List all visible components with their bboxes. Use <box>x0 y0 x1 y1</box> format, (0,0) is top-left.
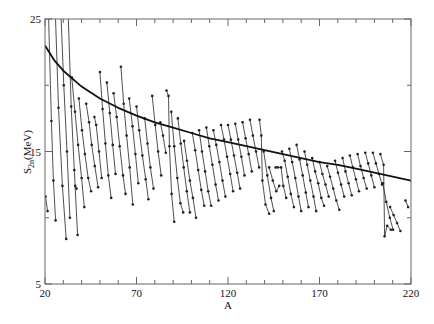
data-point <box>367 162 370 165</box>
isotope-chain <box>372 152 384 186</box>
data-point <box>244 137 247 140</box>
data-point <box>128 166 131 169</box>
data-point <box>220 124 223 127</box>
data-point <box>270 197 273 200</box>
data-point <box>314 170 317 173</box>
data-point <box>407 206 410 209</box>
data-point <box>338 209 341 212</box>
chain-line <box>46 197 48 212</box>
data-point <box>112 92 115 95</box>
data-point <box>301 174 304 177</box>
data-point <box>399 230 402 233</box>
data-point <box>168 145 171 148</box>
data-point <box>255 150 258 153</box>
isotope-chain <box>295 144 310 209</box>
data-point <box>201 150 204 153</box>
data-point <box>264 203 267 206</box>
data-point <box>182 166 185 169</box>
data-point <box>151 95 154 98</box>
isotope-chain <box>349 154 361 192</box>
data-point <box>317 182 320 185</box>
data-point <box>273 210 276 213</box>
isotope-chain <box>112 92 127 195</box>
data-point <box>211 164 214 167</box>
data-point <box>152 187 155 190</box>
data-point <box>173 220 176 223</box>
data-point <box>277 166 280 169</box>
tick-labels: 207012017022051525 <box>30 13 420 299</box>
data-point <box>66 150 69 153</box>
data-point <box>131 125 134 128</box>
data-point <box>392 214 395 217</box>
chain-line <box>250 120 259 168</box>
chain-line <box>343 158 352 195</box>
data-point <box>90 190 93 193</box>
data-point <box>77 144 80 147</box>
data-point <box>226 156 229 159</box>
chain-line <box>269 167 279 191</box>
chain-line <box>160 122 166 153</box>
chain-line <box>380 154 391 236</box>
data-point <box>362 177 365 180</box>
chain-line <box>350 156 359 192</box>
data-point <box>132 203 135 206</box>
data-point <box>266 174 269 177</box>
data-point <box>88 121 91 124</box>
data-point <box>94 165 97 168</box>
isotope-chain <box>220 124 235 193</box>
y-axis-label-sub: 2n <box>27 160 36 168</box>
data-point <box>73 169 76 172</box>
data-point <box>99 71 102 74</box>
isotope-chain <box>274 166 287 199</box>
data-point <box>80 177 83 180</box>
data-point <box>204 170 207 173</box>
data-point <box>70 105 73 108</box>
data-point <box>233 154 236 157</box>
data-point <box>375 162 378 165</box>
data-point <box>379 153 382 156</box>
data-point <box>285 197 288 200</box>
data-point <box>383 235 386 238</box>
data-point <box>334 160 337 163</box>
data-point <box>306 164 309 167</box>
data-point <box>282 185 285 188</box>
data-point <box>69 217 72 220</box>
data-point <box>241 121 244 124</box>
data-point <box>207 190 210 193</box>
isotope-chain <box>151 95 163 177</box>
data-point <box>251 170 254 173</box>
data-point <box>385 201 388 204</box>
data-point <box>258 166 261 169</box>
data-point <box>247 153 250 156</box>
data-point <box>186 160 189 163</box>
chain-line <box>199 130 211 206</box>
data-point <box>141 154 144 157</box>
data-point <box>392 228 395 231</box>
data-point <box>98 150 101 153</box>
data-point <box>57 107 60 110</box>
data-point <box>217 199 220 202</box>
data-point <box>81 129 84 132</box>
data-point <box>321 173 324 176</box>
data-point <box>278 185 281 188</box>
data-point <box>84 153 87 156</box>
isotope-chain <box>48 6 57 222</box>
isotope-chain <box>198 129 213 207</box>
data-point <box>386 224 389 227</box>
data-point <box>356 153 359 156</box>
data-point <box>205 126 208 129</box>
x-axis-label: A <box>224 299 232 311</box>
data-point <box>326 165 329 168</box>
isotope-chain <box>341 157 353 197</box>
data-point <box>52 179 55 182</box>
isotope-chain <box>404 199 409 208</box>
data-point <box>280 166 283 169</box>
chain-line <box>137 107 149 200</box>
data-point <box>300 210 303 213</box>
data-point <box>293 206 296 209</box>
data-point <box>107 174 110 177</box>
isotope-chain <box>120 65 135 205</box>
data-point <box>268 213 271 216</box>
data-point <box>160 174 163 177</box>
data-point <box>210 205 213 208</box>
